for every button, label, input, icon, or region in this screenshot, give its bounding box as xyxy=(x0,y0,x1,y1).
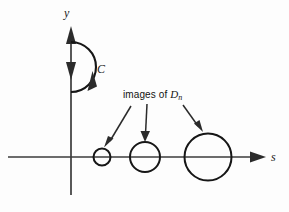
images-annotation-prefix: images of xyxy=(123,89,170,100)
images-annotation-subscript: n xyxy=(178,93,182,102)
diagram-svg xyxy=(0,0,289,212)
leader-arrowhead-middle-icon xyxy=(141,131,151,142)
annotation-leaders-group xyxy=(104,104,203,148)
s-axis-group xyxy=(8,152,266,163)
images-annotation-variable: D xyxy=(170,88,178,100)
leader-line-left xyxy=(110,106,131,141)
y-axis-group xyxy=(66,26,76,195)
figure-canvas: y s C images of Dn xyxy=(0,0,289,212)
contour-down-arrowhead-icon xyxy=(66,62,76,80)
y-axis-label: y xyxy=(64,6,69,21)
images-annotation-label: images of Dn xyxy=(123,88,182,102)
leader-line-middle xyxy=(146,104,148,134)
contour-label-c: C xyxy=(97,62,105,77)
s-axis-arrowhead-icon xyxy=(250,152,266,163)
s-axis-label: s xyxy=(271,150,276,165)
